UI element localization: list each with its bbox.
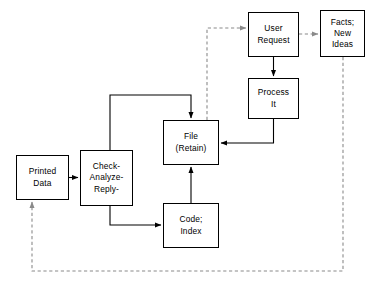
flowchart-diagram: Printed Data Check- Analyze- Reply- File… (0, 0, 378, 293)
process-it-label-line-2: It (271, 99, 276, 110)
file-retain-label-line-2: (Retain) (176, 143, 207, 154)
code-index-label-line-1: Code; (179, 214, 202, 225)
user-request-label-line-1: User (264, 23, 282, 34)
code-index-box[interactable]: Code; Index (163, 203, 219, 248)
facts-new-ideas-label-line-1: Facts; (331, 17, 355, 28)
check-analyze-reply-label-line-2: Analyze- (90, 172, 124, 183)
facts-new-ideas-label-line-3: Ideas (332, 39, 353, 50)
file-retain-label-line-1: File (184, 131, 198, 142)
code-index-label-line-2: Index (180, 226, 201, 237)
edge-file-to-user-request (207, 28, 246, 120)
edge-check-to-code (110, 206, 161, 225)
facts-new-ideas-box[interactable]: Facts; New Ideas (320, 10, 365, 57)
process-it-label-line-1: Process (258, 87, 289, 98)
edge-process-to-file (221, 119, 274, 143)
printed-data-label-line-2: Data (33, 178, 51, 189)
printed-data-box[interactable]: Printed Data (16, 155, 69, 200)
printed-data-label-line-1: Printed (29, 166, 57, 177)
check-analyze-reply-box[interactable]: Check- Analyze- Reply- (80, 150, 133, 206)
process-it-box[interactable]: Process It (248, 78, 299, 119)
facts-new-ideas-label-line-2: New (334, 28, 351, 39)
user-request-label-line-2: Request (257, 35, 289, 46)
check-analyze-reply-label-line-1: Check- (93, 161, 120, 172)
file-retain-box[interactable]: File (Retain) (163, 120, 219, 165)
check-analyze-reply-label-line-3: Reply- (94, 184, 119, 195)
user-request-box[interactable]: User Request (248, 12, 299, 57)
